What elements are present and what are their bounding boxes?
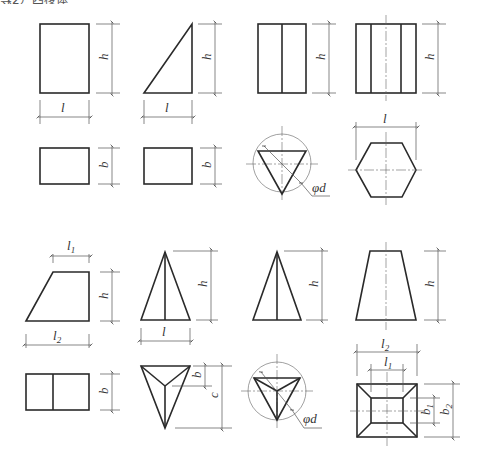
b-label: b xyxy=(96,387,111,394)
rect-top-figure: b xyxy=(40,146,120,186)
technical-drawing: h l h l h xyxy=(0,0,477,458)
hexagon-top-figure: l xyxy=(348,111,424,205)
two-panel-rect-front-figure: h xyxy=(258,22,336,95)
split-triangle-front-figure: h l xyxy=(139,249,218,345)
b2-label: b2 xyxy=(437,404,454,416)
rect-front-figure: h l xyxy=(38,22,120,124)
split-rect-top-figure: b xyxy=(26,372,120,412)
pyramid-side-figure: h xyxy=(253,249,328,322)
phi-d-label: φd xyxy=(303,411,317,426)
h-label: h xyxy=(96,293,111,300)
triangle-in-circle-top-figure: φd xyxy=(246,126,330,200)
l-label: l xyxy=(61,100,65,115)
phi-d-label: φd xyxy=(312,180,326,195)
tri-pyramid-in-circle-top-figure: φd xyxy=(241,354,322,428)
isosceles-trapezoid-front-figure: h xyxy=(356,242,446,330)
l1-label: l1 xyxy=(67,238,75,255)
rect-top-2-figure: b xyxy=(144,146,222,186)
c-label: c xyxy=(206,392,221,398)
b-label: b xyxy=(189,371,204,378)
b1-label: b1 xyxy=(418,404,435,415)
h-label: h xyxy=(313,54,328,61)
l1-label: l1 xyxy=(384,354,392,371)
inverted-triangle-top-figure: b c xyxy=(141,364,232,430)
drawing-canvas: （2）四棱体等 h l h xyxy=(0,0,477,458)
l-label: l xyxy=(383,111,387,126)
h-label: h xyxy=(306,281,321,288)
trapezoid-front-figure: l1 h l2 xyxy=(24,238,120,348)
h-label: h xyxy=(195,281,210,288)
h-label: h xyxy=(422,281,437,288)
b-label: b xyxy=(96,161,111,168)
l-label: l xyxy=(162,324,166,339)
right-triangle-front-figure: h l xyxy=(142,22,222,124)
l-label: l xyxy=(165,100,169,115)
h-label: h xyxy=(96,54,111,61)
b-label: b xyxy=(199,161,214,168)
h-label: h xyxy=(199,54,214,61)
l2-label: l2 xyxy=(53,328,62,345)
three-panel-rect-front-figure: h xyxy=(356,15,446,101)
h-label: h xyxy=(422,54,437,61)
frustum-top-figure: l2 l1 b1 b2 xyxy=(350,336,460,446)
l2-label: l2 xyxy=(381,336,390,353)
